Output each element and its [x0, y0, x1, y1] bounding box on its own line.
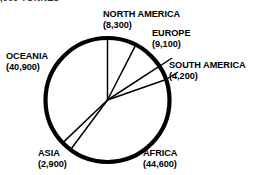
- slice-label-europe-value: (9,100): [152, 39, 191, 50]
- slice-label-africa-name: AFRICA: [143, 148, 177, 158]
- slice-label-oceania: OCEANIA (40,900): [6, 51, 48, 72]
- pie-chart-figure: ,000 TONNES NORTH AMERICA (8,300): [0, 0, 260, 175]
- slice-label-africa: AFRICA (44,600): [143, 148, 177, 169]
- slice-label-asia: ASIA (2,900): [38, 148, 67, 169]
- slice-label-europe: EUROPE (9,100): [152, 28, 191, 49]
- slice-label-south-america-name: SOUTH AMERICA: [169, 60, 246, 70]
- slice-label-north-america: NORTH AMERICA (8,300): [103, 9, 180, 30]
- slice-label-europe-name: EUROPE: [152, 28, 191, 38]
- slice-label-asia-name: ASIA: [38, 148, 60, 158]
- slice-label-oceania-name: OCEANIA: [6, 51, 48, 61]
- slice-label-africa-value: (44,600): [143, 159, 177, 170]
- slice-label-oceania-value: (40,900): [6, 62, 48, 73]
- slice-label-south-america: SOUTH AMERICA (4,200): [169, 60, 246, 81]
- slice-label-asia-value: (2,900): [38, 159, 67, 170]
- slice-label-south-america-value: (4,200): [169, 71, 246, 82]
- slice-label-north-america-name: NORTH AMERICA: [103, 9, 180, 19]
